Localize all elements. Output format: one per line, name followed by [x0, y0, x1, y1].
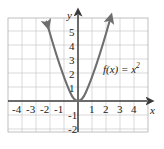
x-tick-neg3: -3 [26, 104, 35, 115]
y-tick-3: 3 [69, 55, 75, 66]
x-tick-3: 3 [117, 104, 123, 115]
y-tick-neg2: -2 [68, 124, 77, 135]
x-tick-neg2: -2 [40, 104, 49, 115]
x-tick-2: 2 [103, 104, 109, 115]
x-tick-4: 4 [131, 104, 137, 115]
y-tick-2: 2 [69, 69, 75, 80]
y-axis-label: y [67, 10, 72, 21]
y-tick-5: 5 [69, 27, 75, 38]
function-equation-label: f(x) = x2 [103, 64, 140, 75]
x-axis-label: x [150, 105, 155, 116]
function-graph-figure: -4 -3 -2 -1 1 2 3 4 5 4 3 2 1 -1 -2 x y … [0, 0, 164, 149]
y-tick-1: 1 [69, 83, 75, 94]
x-tick-neg4: -4 [12, 104, 21, 115]
function-equation-exponent: 2 [136, 61, 140, 70]
x-tick-neg1: -1 [54, 104, 63, 115]
x-tick-1: 1 [89, 104, 95, 115]
y-tick-neg1: -1 [68, 110, 77, 121]
y-tick-4: 4 [69, 41, 75, 52]
function-equation-lead: f(x) = x [103, 63, 136, 75]
